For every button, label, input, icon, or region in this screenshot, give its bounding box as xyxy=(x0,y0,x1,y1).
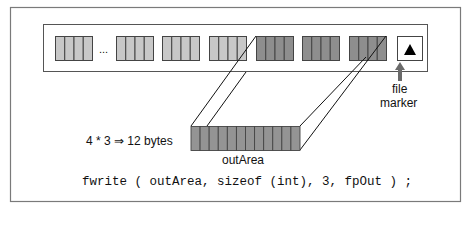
record-group-7 xyxy=(350,37,387,61)
buffer-cell xyxy=(273,127,282,151)
buffer-cell xyxy=(246,127,255,151)
record-group-2 xyxy=(117,37,154,61)
record-group-3 xyxy=(163,37,200,61)
buffer-cell xyxy=(200,127,209,151)
buffer-cell xyxy=(264,127,273,151)
buffer-label: outArea xyxy=(222,153,264,167)
record-group-5 xyxy=(257,37,294,61)
buffer-cell xyxy=(209,127,218,151)
ellipsis-label: ... xyxy=(99,43,108,55)
buffer-cell xyxy=(218,127,227,151)
fwrite-code-line: fwrite ( outArea, sizeof (int), 3, fpOut… xyxy=(82,175,412,189)
record-group-6 xyxy=(303,37,340,61)
buffer-cell xyxy=(191,127,200,151)
buffer-cell xyxy=(236,127,245,151)
byte-count-label: 4 * 3 ⇒ 12 bytes xyxy=(86,134,173,148)
buffer-cell xyxy=(227,127,236,151)
buffer-cell xyxy=(282,127,291,151)
buffer-cell xyxy=(291,127,300,151)
buffer-cell xyxy=(255,127,264,151)
file-marker-label-line2: marker xyxy=(380,96,417,110)
record-group-1 xyxy=(56,37,93,61)
file-marker-label-line1: file xyxy=(392,82,407,96)
outarea-buffer xyxy=(191,127,300,151)
